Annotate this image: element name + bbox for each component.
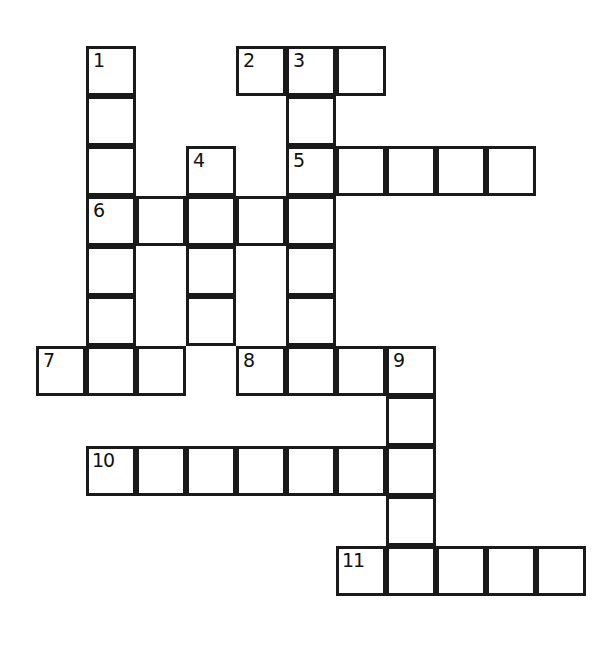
letter-input-7-10[interactable] — [389, 549, 433, 593]
letter-input-4-6[interactable] — [239, 349, 283, 393]
cell-r1c1[interactable] — [86, 96, 136, 146]
cell-r3c3[interactable] — [186, 196, 236, 246]
cell-r0c5[interactable]: 3 — [286, 46, 336, 96]
cell-r2c8[interactable] — [436, 146, 486, 196]
letter-input-6-2[interactable] — [339, 149, 383, 193]
cell-r4c5[interactable] — [286, 246, 336, 296]
cell-r7c7[interactable] — [386, 396, 436, 446]
cell-r8c4[interactable] — [236, 446, 286, 496]
letter-input-7-2[interactable] — [389, 149, 433, 193]
cell-r1c5[interactable] — [286, 96, 336, 146]
letter-input-5-2[interactable] — [289, 149, 333, 193]
crossword-puzzle: 1234567891011 — [0, 0, 607, 654]
letter-input-3-8[interactable] — [189, 449, 233, 493]
letter-input-7-9[interactable] — [389, 499, 433, 543]
cell-r0c6[interactable] — [336, 46, 386, 96]
letter-input-10-10[interactable] — [539, 549, 583, 593]
letter-input-2-6[interactable] — [139, 349, 183, 393]
cell-r10c6[interactable]: 11 — [336, 546, 386, 596]
letter-input-1-6[interactable] — [89, 349, 133, 393]
letter-input-6-10[interactable] — [339, 549, 383, 593]
cell-r8c6[interactable] — [336, 446, 386, 496]
cell-r5c5[interactable] — [286, 296, 336, 346]
letter-input-1-1[interactable] — [89, 99, 133, 143]
letter-input-4-0[interactable] — [239, 49, 283, 93]
letter-input-1-0[interactable] — [89, 49, 133, 93]
letter-input-9-2[interactable] — [489, 149, 533, 193]
letter-input-7-7[interactable] — [389, 399, 433, 443]
cell-r3c5[interactable] — [286, 196, 336, 246]
cell-r0c1[interactable]: 1 — [86, 46, 136, 96]
cell-r5c3[interactable] — [186, 296, 236, 346]
letter-input-1-3[interactable] — [89, 199, 133, 243]
cell-r10c9[interactable] — [486, 546, 536, 596]
letter-input-2-8[interactable] — [139, 449, 183, 493]
cell-r2c7[interactable] — [386, 146, 436, 196]
cell-r10c10[interactable] — [536, 546, 586, 596]
letter-input-6-0[interactable] — [339, 49, 383, 93]
cell-r6c7[interactable]: 9 — [386, 346, 436, 396]
cell-r2c1[interactable] — [86, 146, 136, 196]
cell-r10c7[interactable] — [386, 546, 436, 596]
letter-input-5-3[interactable] — [289, 199, 333, 243]
cell-r6c2[interactable] — [136, 346, 186, 396]
cell-r8c2[interactable] — [136, 446, 186, 496]
letter-input-5-1[interactable] — [289, 99, 333, 143]
cell-r3c1[interactable]: 6 — [86, 196, 136, 246]
cell-r0c4[interactable]: 2 — [236, 46, 286, 96]
letter-input-9-10[interactable] — [489, 549, 533, 593]
letter-input-2-3[interactable] — [139, 199, 183, 243]
letter-input-1-2[interactable] — [89, 149, 133, 193]
cell-r2c3[interactable]: 4 — [186, 146, 236, 196]
cell-r2c9[interactable] — [486, 146, 536, 196]
letter-input-0-6[interactable] — [39, 349, 83, 393]
letter-input-6-6[interactable] — [339, 349, 383, 393]
cell-r6c5[interactable] — [286, 346, 336, 396]
crossword-grid[interactable]: 1234567891011 — [0, 0, 607, 654]
cell-r6c4[interactable]: 8 — [236, 346, 286, 396]
letter-input-1-4[interactable] — [89, 249, 133, 293]
cell-r6c0[interactable]: 7 — [36, 346, 86, 396]
cell-r4c3[interactable] — [186, 246, 236, 296]
letter-input-1-5[interactable] — [89, 299, 133, 343]
letter-input-3-5[interactable] — [189, 299, 233, 343]
cell-r5c1[interactable] — [86, 296, 136, 346]
letter-input-7-8[interactable] — [389, 449, 433, 493]
letter-input-8-10[interactable] — [439, 549, 483, 593]
letter-input-1-8[interactable] — [89, 449, 133, 493]
cell-r8c5[interactable] — [286, 446, 336, 496]
letter-input-3-3[interactable] — [189, 199, 233, 243]
letter-input-5-6[interactable] — [289, 349, 333, 393]
letter-input-5-5[interactable] — [289, 299, 333, 343]
cell-r3c4[interactable] — [236, 196, 286, 246]
cell-r2c5[interactable]: 5 — [286, 146, 336, 196]
letter-input-5-8[interactable] — [289, 449, 333, 493]
letter-input-8-2[interactable] — [439, 149, 483, 193]
cell-r3c2[interactable] — [136, 196, 186, 246]
cell-r8c3[interactable] — [186, 446, 236, 496]
letter-input-5-4[interactable] — [289, 249, 333, 293]
cell-r6c6[interactable] — [336, 346, 386, 396]
letter-input-3-2[interactable] — [189, 149, 233, 193]
cell-r4c1[interactable] — [86, 246, 136, 296]
letter-input-4-8[interactable] — [239, 449, 283, 493]
cell-r8c7[interactable] — [386, 446, 436, 496]
cell-r2c6[interactable] — [336, 146, 386, 196]
letter-input-4-3[interactable] — [239, 199, 283, 243]
letter-input-7-6[interactable] — [389, 349, 433, 393]
letter-input-6-8[interactable] — [339, 449, 383, 493]
cell-r9c7[interactable] — [386, 496, 436, 546]
cell-r8c1[interactable]: 10 — [86, 446, 136, 496]
cell-r6c1[interactable] — [86, 346, 136, 396]
cell-r10c8[interactable] — [436, 546, 486, 596]
letter-input-5-0[interactable] — [289, 49, 333, 93]
letter-input-3-4[interactable] — [189, 249, 233, 293]
